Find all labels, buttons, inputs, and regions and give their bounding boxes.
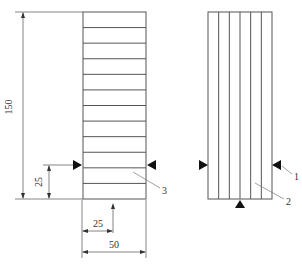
arrow-head-icon [107,229,113,233]
arrow-head-icon [47,165,51,171]
leader-line-2 [255,183,284,199]
arrow-head-icon [47,193,51,199]
load-arrow-left-icon [73,160,82,170]
arrow-head-icon [82,250,88,254]
label-3: 3 [162,185,167,196]
arrow-head-icon [111,203,115,209]
support-arrow-bottom-icon [235,200,245,208]
arrow-head-icon [21,12,25,18]
dimension-label-50: 50 [109,239,119,250]
dimension-label-25-horizontal: 25 [93,218,103,229]
dimension-label-25-vertical: 25 [33,177,44,187]
right-specimen [208,12,272,199]
load-arrow-right-icon [272,160,281,170]
load-arrow-left-icon [199,160,208,170]
arrow-head-icon [140,250,146,254]
label-2: 2 [286,196,291,207]
leader-line-1 [282,166,292,174]
dimension-label-150: 150 [3,100,14,115]
label-1: 1 [294,171,299,182]
arrow-head-icon [21,193,25,199]
left-specimen [83,12,146,199]
load-arrow-right-icon [147,160,156,170]
arrow-head-icon [82,229,88,233]
specimen-diagram: 150 25 25 50 3 1 2 [0,0,302,270]
